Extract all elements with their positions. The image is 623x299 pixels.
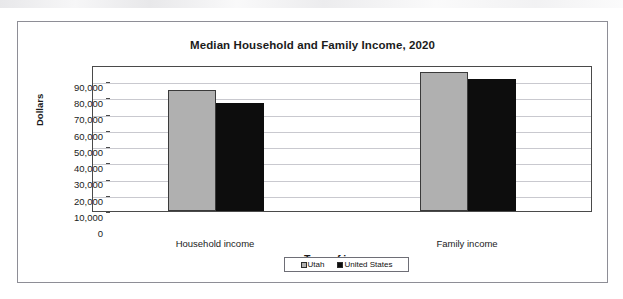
bar-utah-household-income [168,90,216,211]
legend-label: United States [344,260,392,269]
y-axis-tick-label: 0 [53,228,103,239]
x-axis-category-label: Household income [176,238,255,249]
legend-swatch-icon [337,262,343,268]
y-axis-tick-mark [106,212,110,213]
y-axis-tick-mark [106,82,110,83]
bar-united-states-family-income [468,79,516,211]
y-axis-tick-mark [106,163,110,164]
y-axis-tick-mark [106,115,110,116]
chart-title: Median Household and Family Income, 2020 [18,39,607,51]
legend-item: Utah [301,260,325,269]
legend-item: United States [337,260,392,269]
y-axis-tick-mark [106,147,110,148]
y-axis-title: Dollars [34,112,45,126]
chart-frame: Median Household and Family Income, 2020… [17,21,608,283]
y-axis-tick-label: 10,000 [53,211,103,222]
chart-legend: UtahUnited States [284,257,409,272]
y-axis-tick-mark [106,196,110,197]
y-axis-tick-mark [106,131,110,132]
x-axis-category-label: Family income [436,238,497,249]
y-axis-tick-mark [106,180,110,181]
plot-area [92,66,592,212]
y-axis-tick-mark [106,98,110,99]
gridline [93,83,591,84]
legend-swatch-icon [301,262,307,268]
scan-artifact-streak [0,0,623,8]
y-axis-tick-mark [106,66,110,67]
legend-label: Utah [308,260,325,269]
bar-united-states-household-income [216,103,264,211]
bar-utah-family-income [420,72,468,211]
